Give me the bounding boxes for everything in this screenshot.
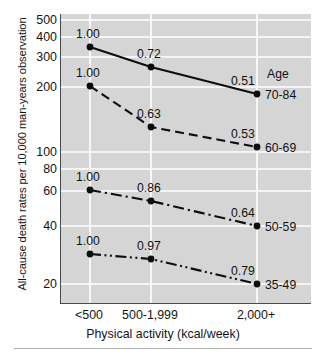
point-label-35-49-0: 1.00 [76, 235, 100, 247]
series-label-60-69: 60-69 [265, 142, 296, 154]
y-tick-300: 300 [19, 51, 57, 63]
y-tick-200: 200 [19, 81, 57, 93]
series-label-50-59: 50-59 [265, 221, 296, 233]
point-label-60-69-2: 0.53 [231, 128, 255, 140]
legend-header-age: Age [267, 68, 289, 80]
plot-area: 1.00 0.72 0.51 1.00 0.63 0.53 1.00 0.86 … [60, 14, 311, 304]
y-tick-20: 20 [19, 278, 57, 290]
y-axis-tick-labels: 500 400 300 200 100 80 60 40 20 [14, 0, 57, 354]
point-label-35-49-1: 0.97 [137, 240, 161, 252]
y-tick-60: 60 [19, 185, 57, 197]
x-axis-label: Physical activity (kcal/week) [0, 327, 326, 341]
x-tick-500-1999: 500-1,999 [110, 309, 190, 322]
y-tick-100: 100 [19, 146, 57, 158]
chart-figure: All-cause death rates per 10,000 man-yea… [0, 0, 326, 354]
y-tick-400: 400 [19, 31, 57, 43]
y-tick-40: 40 [19, 220, 57, 232]
series-label-70-84: 70-84 [265, 89, 296, 101]
point-label-50-59-1: 0.86 [137, 182, 161, 194]
footer-rule [14, 348, 312, 349]
y-tick-80: 80 [19, 163, 57, 175]
point-label-70-84-2: 0.51 [231, 75, 255, 87]
point-label-50-59-0: 1.00 [76, 171, 100, 183]
plot-svg [61, 14, 311, 303]
point-label-60-69-1: 0.63 [137, 108, 161, 120]
point-label-70-84-0: 1.00 [76, 28, 100, 40]
x-tick-2000-plus: 2,000+ [216, 309, 296, 322]
point-label-70-84-1: 0.72 [137, 48, 161, 60]
point-label-35-49-2: 0.79 [231, 265, 255, 277]
series-label-35-49: 35-49 [265, 279, 296, 291]
point-label-50-59-2: 0.64 [231, 207, 255, 219]
y-tick-500: 500 [19, 14, 57, 26]
point-label-60-69-0: 1.00 [76, 67, 100, 79]
